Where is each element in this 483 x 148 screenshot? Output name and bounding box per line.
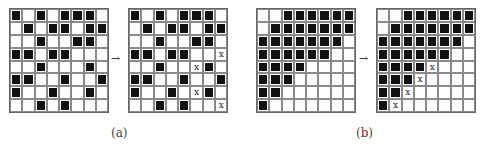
empty-cell bbox=[10, 61, 22, 74]
empty-cell bbox=[166, 61, 178, 74]
filled-cell bbox=[154, 99, 166, 112]
filled-cell bbox=[59, 99, 71, 112]
empty-cell bbox=[154, 22, 166, 35]
filled-cell bbox=[306, 48, 318, 61]
grid-a-before bbox=[9, 8, 109, 113]
empty-cell bbox=[377, 9, 389, 22]
filled-cell bbox=[389, 73, 401, 86]
filled-cell bbox=[178, 9, 190, 22]
empty-cell bbox=[451, 99, 463, 112]
filled-cell bbox=[166, 48, 178, 61]
empty-cell bbox=[451, 86, 463, 99]
filled-cell bbox=[96, 73, 108, 86]
empty-cell bbox=[343, 86, 355, 99]
panel-label-b: (b) bbox=[356, 126, 373, 140]
filled-cell bbox=[35, 61, 47, 74]
filled-cell bbox=[294, 48, 306, 61]
filled-cell bbox=[331, 22, 343, 35]
filled-cell bbox=[402, 35, 414, 48]
empty-cell bbox=[215, 61, 227, 74]
empty-cell bbox=[282, 99, 294, 112]
filled-cell bbox=[257, 48, 269, 61]
filled-cell bbox=[269, 48, 281, 61]
filled-cell bbox=[71, 9, 83, 22]
filled-cell bbox=[47, 86, 59, 99]
filled-cell bbox=[402, 48, 414, 61]
filled-cell bbox=[282, 9, 294, 22]
filled-cell bbox=[389, 35, 401, 48]
empty-cell bbox=[463, 99, 475, 112]
empty-cell bbox=[96, 61, 108, 74]
filled-cell bbox=[141, 48, 153, 61]
filled-cell bbox=[59, 22, 71, 35]
empty-cell bbox=[318, 61, 330, 74]
filled-cell bbox=[269, 22, 281, 35]
empty-cell bbox=[190, 48, 202, 61]
filled-cell bbox=[377, 73, 389, 86]
empty-cell bbox=[71, 99, 83, 112]
empty-cell bbox=[35, 73, 47, 86]
filled-cell bbox=[438, 35, 450, 48]
filled-cell bbox=[203, 35, 215, 48]
empty-cell bbox=[426, 99, 438, 112]
empty-cell bbox=[451, 48, 463, 61]
empty-cell bbox=[414, 99, 426, 112]
filled-cell bbox=[257, 86, 269, 99]
filled-cell bbox=[84, 9, 96, 22]
empty-cell bbox=[59, 86, 71, 99]
empty-cell bbox=[438, 99, 450, 112]
filled-cell bbox=[414, 35, 426, 48]
empty-cell bbox=[71, 22, 83, 35]
filled-cell bbox=[282, 73, 294, 86]
filled-cell bbox=[414, 9, 426, 22]
filled-cell bbox=[343, 9, 355, 22]
filled-cell bbox=[215, 22, 227, 35]
filled-cell bbox=[203, 9, 215, 22]
filled-cell bbox=[377, 48, 389, 61]
empty-cell bbox=[22, 86, 34, 99]
empty-cell bbox=[257, 22, 269, 35]
empty-cell bbox=[166, 99, 178, 112]
empty-cell bbox=[269, 9, 281, 22]
empty-cell bbox=[331, 86, 343, 99]
empty-cell bbox=[84, 99, 96, 112]
empty-cell bbox=[190, 22, 202, 35]
filled-cell bbox=[129, 48, 141, 61]
empty-cell bbox=[269, 99, 281, 112]
filled-cell bbox=[190, 35, 202, 48]
filled-cell bbox=[257, 73, 269, 86]
empty-cell bbox=[463, 48, 475, 61]
filled-cell bbox=[318, 48, 330, 61]
filled-cell bbox=[294, 61, 306, 74]
empty-cell bbox=[141, 99, 153, 112]
filled-cell bbox=[389, 22, 401, 35]
filled-cell bbox=[84, 22, 96, 35]
filled-cell bbox=[451, 35, 463, 48]
filled-cell bbox=[306, 35, 318, 48]
filled-cell bbox=[10, 48, 22, 61]
filled-cell bbox=[129, 73, 141, 86]
empty-cell bbox=[203, 48, 215, 61]
empty-cell bbox=[129, 22, 141, 35]
filled-cell bbox=[331, 9, 343, 22]
filled-cell bbox=[129, 9, 141, 22]
filled-cell bbox=[190, 9, 202, 22]
empty-cell bbox=[154, 73, 166, 86]
filled-cell bbox=[35, 99, 47, 112]
filled-cell bbox=[154, 61, 166, 74]
empty-cell bbox=[257, 9, 269, 22]
filled-cell bbox=[22, 48, 34, 61]
filled-cell bbox=[414, 61, 426, 74]
filled-cell bbox=[282, 48, 294, 61]
filled-cell bbox=[451, 22, 463, 35]
marked-cell: x bbox=[426, 61, 438, 74]
filled-cell bbox=[178, 99, 190, 112]
filled-cell bbox=[47, 48, 59, 61]
empty-cell bbox=[294, 99, 306, 112]
empty-cell bbox=[190, 99, 202, 112]
filled-cell bbox=[178, 73, 190, 86]
empty-cell bbox=[71, 73, 83, 86]
filled-cell bbox=[269, 61, 281, 74]
empty-cell bbox=[178, 86, 190, 99]
empty-cell bbox=[306, 86, 318, 99]
